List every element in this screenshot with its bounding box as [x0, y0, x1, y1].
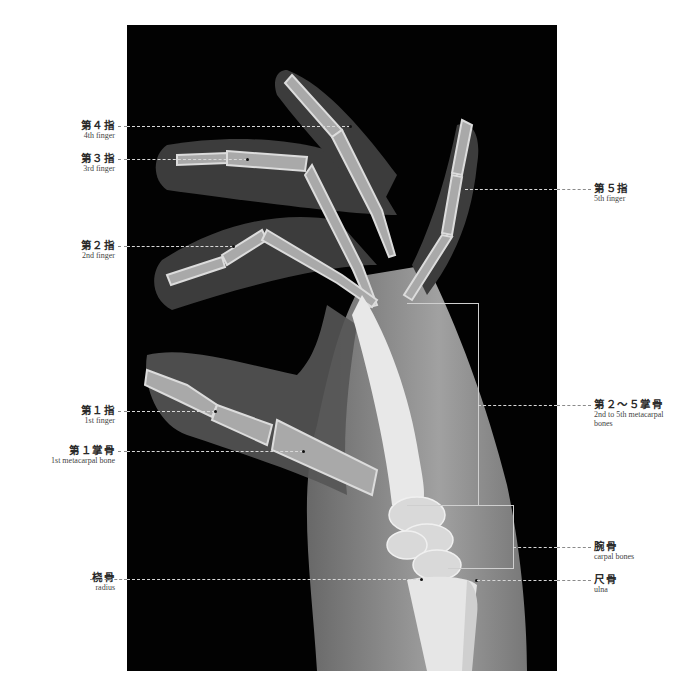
- leader-finger-3: [118, 159, 127, 160]
- label-metacarpal-2-5: 第２～５掌骨 2nd to 5th metacarpal bones: [594, 398, 664, 428]
- leader-finger-2-inner: [127, 246, 233, 247]
- leader-metacarpal-1: [118, 451, 127, 452]
- label-metacarpal-1: 第１掌骨 1st metacarpal bone: [51, 444, 115, 465]
- label-jp: 第２～５掌骨: [594, 398, 664, 410]
- label-jp: 尺骨: [594, 573, 617, 585]
- label-jp: 第１指: [81, 404, 116, 416]
- leader-finger-4: [118, 126, 127, 127]
- carpal-bracket: [448, 505, 514, 569]
- leader-dot: [302, 450, 305, 453]
- leader-ulna: [557, 580, 591, 581]
- metacarpal-bracket: [407, 303, 479, 506]
- leader-finger-3-inner: [127, 159, 247, 160]
- leader-finger-1: [118, 411, 127, 412]
- label-finger-4: 第４指 4th finger: [81, 119, 116, 140]
- leader-finger-5-inner: [465, 189, 557, 190]
- label-en: 5th finger: [594, 194, 629, 203]
- leader-radius-inner: [127, 579, 421, 580]
- leader-finger-1-inner: [127, 411, 215, 412]
- label-jp: 第５指: [594, 182, 629, 194]
- leader-dot: [349, 125, 352, 128]
- label-carpal: 腕骨 carpal bones: [594, 540, 634, 561]
- label-en: 2nd to 5th metacarpal: [594, 410, 664, 419]
- leader-ulna-inner: [477, 580, 557, 581]
- label-jp: 第４指: [81, 119, 116, 131]
- leader-finger-2: [118, 246, 127, 247]
- label-finger-2: 第２指 2nd finger: [81, 239, 116, 260]
- leader-dot: [420, 578, 423, 581]
- label-en: ulna: [594, 585, 617, 594]
- label-en-line2: bones: [594, 419, 664, 428]
- label-jp: 第１掌骨: [51, 444, 115, 456]
- label-en: 2nd finger: [81, 251, 116, 260]
- label-jp: 第２指: [81, 239, 116, 251]
- label-finger-3: 第３指 3rd finger: [81, 152, 116, 173]
- label-radius: 桡骨 radius: [92, 571, 115, 592]
- label-jp: 腕骨: [594, 540, 634, 552]
- label-en: 4th finger: [81, 131, 116, 140]
- leader-dot: [214, 410, 217, 413]
- label-en: 1st finger: [81, 416, 116, 425]
- leader-metacarpal-1-inner: [127, 451, 303, 452]
- label-en: radius: [92, 583, 115, 592]
- leader-metacarpal-2-5: [557, 405, 591, 406]
- leader-finger-5: [557, 189, 591, 190]
- leader-metacarpal-2-5-inner: [478, 405, 557, 406]
- leader-dot: [246, 158, 249, 161]
- leader-carpal: [557, 547, 591, 548]
- label-finger-5: 第５指 5th finger: [594, 182, 629, 203]
- leader-dot: [232, 245, 235, 248]
- leader-finger-4-inner: [127, 126, 350, 127]
- leader-carpal-inner: [513, 547, 557, 548]
- label-en: carpal bones: [594, 552, 634, 561]
- label-jp: 第３指: [81, 152, 116, 164]
- label-finger-1: 第１指 1st finger: [81, 404, 116, 425]
- leader-radius: [90, 579, 127, 580]
- xray-image: [127, 25, 557, 671]
- label-ulna: 尺骨 ulna: [594, 573, 617, 594]
- hand-xray-illustration: [127, 25, 557, 671]
- label-jp: 桡骨: [92, 571, 115, 583]
- label-en: 1st metacarpal bone: [51, 456, 115, 465]
- label-en: 3rd finger: [81, 164, 116, 173]
